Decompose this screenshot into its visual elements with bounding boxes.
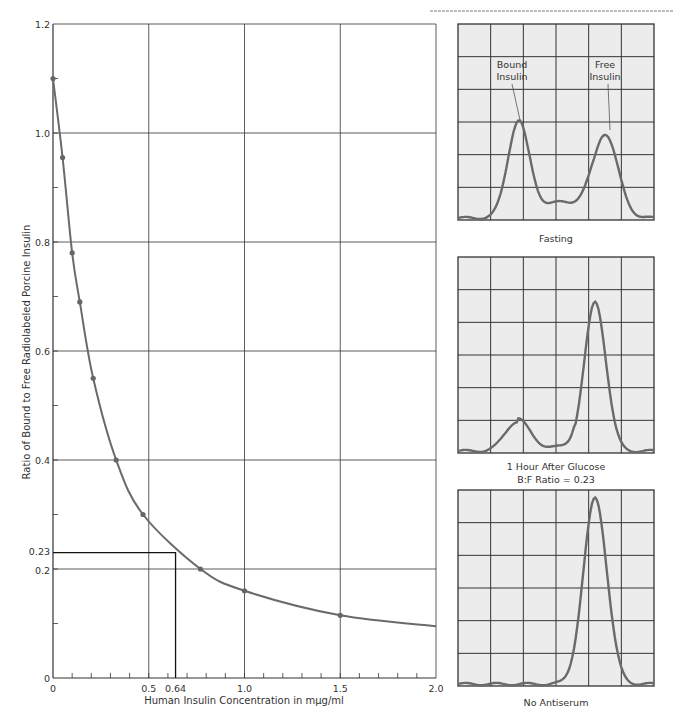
data-point [140,512,145,517]
data-point [338,613,343,618]
fasting-caption: Fasting [456,232,656,245]
x-tick-label: 1.5 [333,683,348,694]
data-point [60,155,65,160]
no-antiserum-panel [456,488,656,688]
y-tick-label: 0.2 [35,565,50,576]
tick-labels: 00.50.641.01.52.000.20.230.40.60.81.01.2 [29,19,444,695]
annotation-lines [53,553,176,678]
data-point [77,299,82,304]
y-axis-label: Ratio of Bound to Free Radiolabeled Porc… [21,225,32,480]
data-point [91,376,96,381]
after-glucose-caption: 1 Hour After Glucose B:F Ratio = 0.23 [456,460,656,486]
data-point [70,250,75,255]
grid [53,24,436,678]
annotation-guide [53,553,176,678]
x-axis-label: Human Insulin Concentration in mμg/ml [144,695,344,706]
y-tick-label: 0.4 [35,455,50,466]
data-point [50,76,55,81]
fasting-panel: BoundInsulinFreeInsulin [456,22,656,222]
bound-insulin-label: BoundInsulin [496,59,527,82]
data-point [198,566,203,571]
x-tick-label: 0.64 [165,683,186,694]
y-tick-label: 0.8 [35,237,50,248]
data-points [50,76,342,618]
running-head [430,0,674,5]
y-tick-label: 0.6 [35,346,50,357]
bf-ratio-label: B:F Ratio = 0.23 [456,473,656,486]
no-antiserum-caption: No Antiserum [456,696,656,709]
x-tick-label: 0.5 [141,683,156,694]
y-tick-label: 1.0 [35,128,50,139]
data-point [114,457,119,462]
data-point [242,588,247,593]
y-tick-label: 1.2 [35,19,50,30]
x-tick-label: 0 [50,683,56,694]
x-tick-label: 1.0 [237,683,252,694]
after-glucose-title: 1 Hour After Glucose [456,460,656,473]
standard-curve-chart: 00.50.641.01.52.000.20.230.40.60.81.01.2… [0,0,445,727]
after-glucose-panel [456,255,656,455]
y-tick-label: 0.23 [29,546,50,557]
x-tick-label: 2.0 [428,683,443,694]
y-tick-label: 0 [44,673,50,684]
